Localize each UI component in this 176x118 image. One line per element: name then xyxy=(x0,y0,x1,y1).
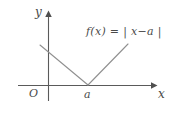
curve-right-branch xyxy=(88,44,128,85)
function-formula-label: f(x) = | x−a | xyxy=(86,26,162,37)
origin-label: O xyxy=(29,88,38,99)
vertex-tick-label-a: a xyxy=(84,89,91,100)
y-axis-label: y xyxy=(35,6,42,18)
figure-canvas: y x O a f(x) = | x−a | xyxy=(0,0,176,118)
curve-left-branch xyxy=(40,45,88,85)
x-axis-label: x xyxy=(158,88,165,100)
